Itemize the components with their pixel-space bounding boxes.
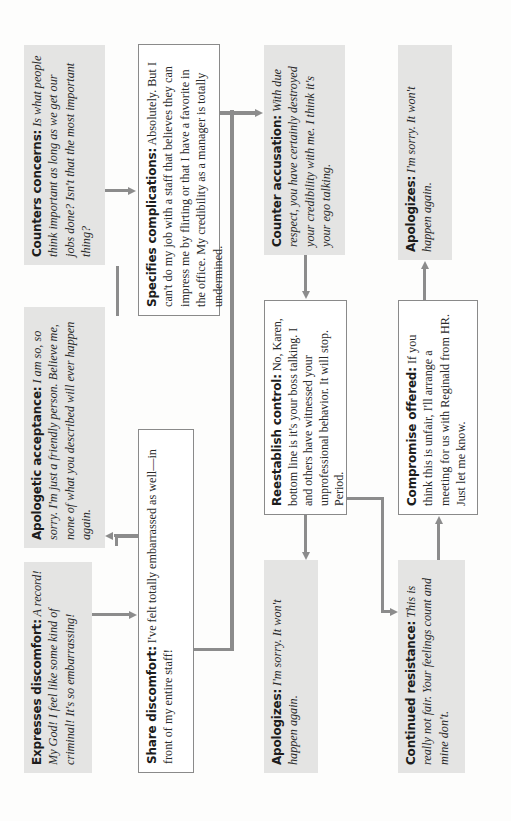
node-apologizes-middle: Apologizes: I'm sorry. It won't happen a… bbox=[264, 560, 318, 773]
connector-line bbox=[304, 515, 307, 552]
flowchart-stage: Expresses discomfort: A record! My God! … bbox=[0, 0, 511, 821]
connector-line bbox=[105, 189, 129, 192]
node-share-discomfort: Share discomfort: I've felt totally emba… bbox=[138, 429, 194, 773]
node-specifies-complications: Specifies complications: Absolutely. But… bbox=[138, 44, 220, 316]
node-label: Specifies complications: bbox=[145, 148, 159, 307]
arrow-head-icon bbox=[302, 291, 310, 299]
connector-line bbox=[304, 255, 307, 291]
connector-line bbox=[230, 110, 234, 651]
connector-line bbox=[381, 497, 384, 613]
node-expresses-discomfort: Expresses discomfort: A record! My God! … bbox=[24, 562, 92, 773]
node-label: Expresses discomfort: bbox=[30, 619, 44, 765]
connector-line bbox=[92, 613, 130, 616]
node-continued-resistance: Continued resistance: This is really not… bbox=[398, 560, 465, 773]
arrow-head-icon bbox=[435, 516, 443, 524]
node-label: Apologizes: bbox=[404, 176, 418, 252]
node-label: Apologetic acceptance: bbox=[30, 387, 44, 540]
node-label: Counter accusation: bbox=[270, 115, 284, 247]
node-apologetic-acceptance: Apologetic acceptance: I am so, so sorry… bbox=[24, 307, 105, 548]
connector-line bbox=[194, 648, 232, 651]
connector-line bbox=[437, 523, 440, 560]
node-label: Continued resistance: bbox=[404, 621, 418, 765]
node-compromise-offered: Compromise offered: If you think this is… bbox=[398, 300, 478, 515]
arrow-head-icon bbox=[105, 532, 113, 540]
connector-line bbox=[347, 497, 383, 500]
node-apologizes-right: Apologizes: I'm sorry. It won't happen a… bbox=[398, 45, 452, 260]
node-label: Compromise offered: bbox=[405, 367, 419, 506]
node-counter-accusation: Counter accusation: With due respect, yo… bbox=[264, 45, 345, 255]
node-counters-concerns: Counters concerns: Is what people think … bbox=[24, 45, 105, 265]
connector-line bbox=[116, 266, 119, 316]
arrow-head-icon bbox=[390, 608, 398, 616]
node-label: Counters concerns: bbox=[30, 130, 44, 257]
connector-line bbox=[220, 111, 256, 115]
node-label: Share discomfort: bbox=[145, 646, 159, 764]
arrow-head-icon bbox=[255, 109, 263, 117]
arrow-head-icon bbox=[302, 552, 310, 560]
arrow-head-icon bbox=[421, 261, 429, 269]
node-label: Reestablish control: bbox=[270, 374, 284, 506]
node-label: Apologizes: bbox=[270, 689, 284, 765]
arrow-head-icon bbox=[129, 611, 137, 619]
node-reestablish-control: Reestablish control: No, Karen, bottom l… bbox=[264, 300, 347, 515]
arrow-head-icon bbox=[128, 187, 136, 195]
connector-line bbox=[114, 534, 138, 537]
connector-line bbox=[423, 268, 426, 300]
